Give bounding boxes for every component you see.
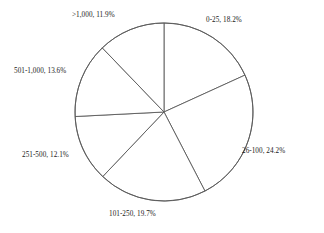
slice-label-101-250: 101-250, 19.7%	[109, 211, 156, 218]
slice-label-501-1000: 501-1,000, 13.6%	[14, 68, 66, 75]
pie-slice-group	[75, 23, 253, 201]
pie-chart-graphic	[0, 0, 324, 233]
slice-label-26-100: 26-100, 24.2%	[242, 148, 285, 155]
pie-chart: 0-25, 18.2% 26-100, 24.2% 101-250, 19.7%…	[0, 0, 324, 233]
slice-label-251-500: 251-500, 12.1%	[22, 152, 69, 159]
slice-label-0-25: 0-25, 18.2%	[206, 17, 242, 24]
slice-label-over-1000: >1,000, 11.9%	[72, 12, 115, 19]
